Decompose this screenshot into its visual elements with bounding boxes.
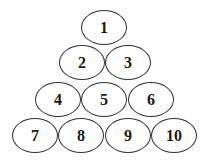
oval-10: 10 [151, 118, 197, 153]
oval-6: 6 [128, 82, 174, 117]
oval-3: 3 [105, 45, 151, 80]
oval-4: 4 [35, 82, 81, 117]
oval-7: 7 [12, 118, 58, 153]
oval-5: 5 [81, 82, 127, 117]
oval-8: 8 [58, 118, 104, 153]
oval-2: 2 [59, 45, 105, 80]
oval-9: 9 [105, 118, 151, 153]
oval-1: 1 [81, 10, 127, 45]
